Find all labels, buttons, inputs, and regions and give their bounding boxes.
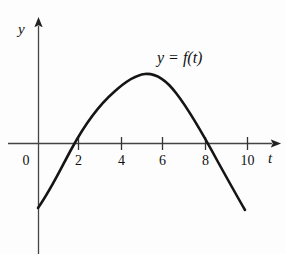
tick-label-10: 10: [236, 154, 259, 168]
tick-label-origin: 0: [18, 154, 34, 168]
t-axis-label: t: [268, 151, 272, 166]
tick-label-4: 4: [113, 154, 130, 168]
tick-label-6: 6: [154, 154, 171, 168]
plot-canvas: [0, 0, 285, 254]
tick-label-8: 8: [197, 154, 214, 168]
tick-label-2: 2: [70, 154, 87, 168]
graph-figure: y t y = f(t) 0 2 4 6 8 10: [0, 0, 285, 254]
curve-equation-label: y = f(t): [157, 50, 202, 66]
y-axis-label: y: [18, 22, 25, 37]
function-curve: [38, 74, 245, 210]
